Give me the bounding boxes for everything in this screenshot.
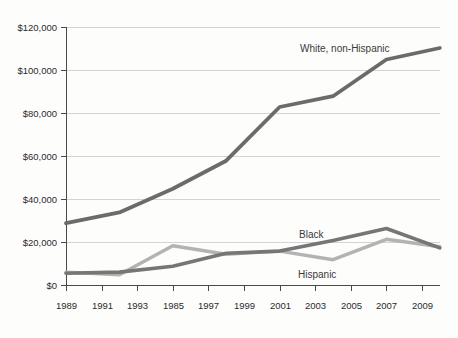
y-tick-label-80000: $80,000	[5, 108, 57, 119]
series-line-white-non-hispanic	[66, 48, 440, 223]
y-tick-label-120000: $120,000	[5, 22, 57, 33]
series-line-hispanic	[66, 239, 440, 274]
x-tick-label-2009: 2009	[400, 300, 445, 311]
y-tick-label-20000: $20,000	[5, 237, 57, 248]
y-tick-label-100000: $100,000	[5, 65, 57, 76]
y-tick-label-40000: $40,000	[5, 194, 57, 205]
y-axis-ticks	[61, 28, 66, 286]
series-line-black	[66, 229, 440, 274]
chart-figure: $120,000 $100,000 $80,000 $60,000 $40,00…	[0, 0, 458, 338]
x-axis-ticks	[67, 286, 423, 292]
series-annotation-black: Black	[299, 229, 323, 240]
series-annotation-hispanic: Hispanic	[298, 269, 336, 280]
y-tick-label-0: $0	[5, 280, 57, 291]
series-annotation-white-non-hispanic: White, non-Hispanic	[300, 43, 389, 54]
y-tick-label-60000: $60,000	[5, 151, 57, 162]
